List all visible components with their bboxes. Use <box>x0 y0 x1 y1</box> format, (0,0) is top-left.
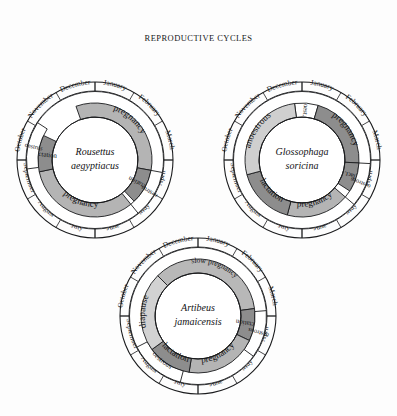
page-title: REPRODUCTIVE CYCLES <box>0 33 397 43</box>
month-label: January <box>103 78 128 93</box>
species-name-line1: Artibeus <box>180 302 215 313</box>
species-name-line2: soricina <box>286 160 319 171</box>
month-label: March <box>370 129 384 151</box>
month-label: October <box>116 282 131 308</box>
cycle-diagram-artibeus: JanuaryFebruaryMarchAprilMayJuneJulyAugu… <box>94 212 302 416</box>
species-name-line2: jamaicensis <box>172 316 221 327</box>
species-name-line2: aegyptiacus <box>71 160 119 171</box>
species-name-line1: Rousettus <box>75 146 115 157</box>
month-label: October <box>220 126 235 152</box>
month-label: October <box>13 126 28 152</box>
month-label: January <box>206 234 231 249</box>
month-label: January <box>310 78 335 93</box>
month-label: March <box>163 129 177 151</box>
segment-label: oest. <box>302 104 310 117</box>
species-name-line1: Glossophaga <box>276 146 329 157</box>
month-label: March <box>266 285 280 307</box>
